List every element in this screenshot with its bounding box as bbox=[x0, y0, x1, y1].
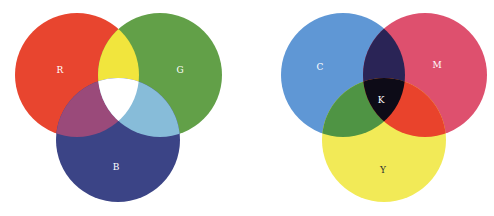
cmy-label-m: M bbox=[432, 60, 441, 70]
rgb-label-b: B bbox=[113, 162, 120, 172]
color-models-figure: RGB CMYK bbox=[0, 0, 494, 216]
cmy-label-c: C bbox=[317, 62, 324, 72]
cmy-label-k: K bbox=[378, 95, 385, 105]
rgb-label-r: R bbox=[57, 65, 64, 75]
cmy-label-y: Y bbox=[379, 165, 387, 175]
rgb-label-g: G bbox=[176, 65, 183, 75]
rgb-venn-diagram: RGB bbox=[15, 13, 222, 202]
cmyk-venn-diagram: CMYK bbox=[281, 13, 487, 202]
